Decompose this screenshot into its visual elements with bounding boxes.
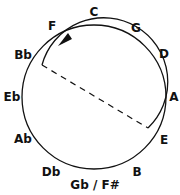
label-d: D (159, 48, 169, 60)
label-b: B (132, 166, 141, 178)
label-eb: Eb (4, 91, 21, 103)
circle-of-fifths-diagram: C G D A E B Gb / F# Db Ab Eb Bb F (0, 0, 180, 195)
label-ab: Ab (14, 133, 32, 145)
dashed-chord (42, 65, 148, 128)
label-bb: Bb (14, 49, 32, 61)
label-gb-fsharp: Gb / F# (70, 179, 119, 191)
inner-arc (42, 18, 168, 128)
diagram-graphics (0, 0, 180, 195)
label-db: Db (42, 166, 61, 178)
label-a: A (169, 91, 178, 103)
label-e: E (160, 134, 168, 146)
label-f: F (48, 20, 56, 32)
outer-circle (22, 25, 166, 169)
label-g: G (131, 22, 141, 34)
label-c: C (90, 6, 99, 18)
